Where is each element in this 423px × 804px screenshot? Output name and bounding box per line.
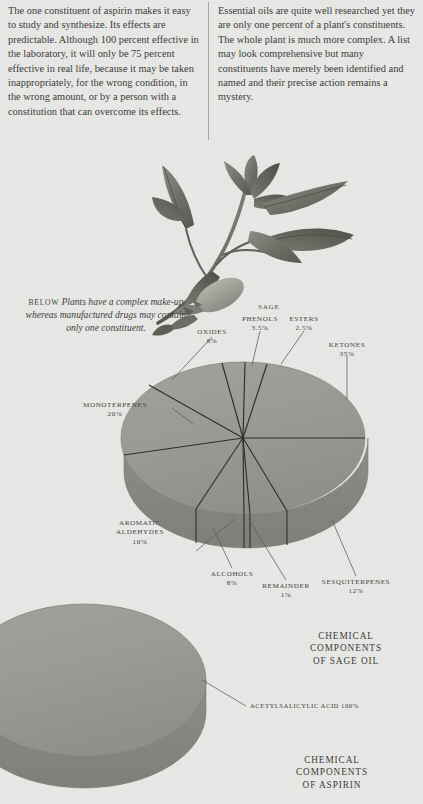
chart-title-sage-oil: CHEMICAL COMPONENTS OF SAGE OIL bbox=[276, 630, 416, 667]
magazine-page: The one constituent of aspirin makes it … bbox=[0, 0, 423, 804]
pie-label-monoterpenes: MONOTERPENES 20% bbox=[58, 401, 172, 420]
pie-label-acetylsalicylic-acid: ACETYLSALICYLIC ACID 100% bbox=[250, 702, 359, 709]
pie-chart-aspirin bbox=[0, 604, 246, 788]
pie-label-aromatic-aldehydes: AROMATIC ALDEHYDES 10% bbox=[95, 519, 185, 547]
pie-label-alcohols: ALCOHOLS 8% bbox=[192, 570, 272, 589]
pie-label-esters: ESTERS 2.5% bbox=[276, 315, 332, 334]
chart-title-aspirin: CHEMICAL COMPONENTS OF ASPIRIN bbox=[262, 754, 402, 791]
pie-leader-line-aspirin bbox=[202, 680, 246, 706]
pie-label-ketones: KETONES 35% bbox=[302, 341, 392, 360]
